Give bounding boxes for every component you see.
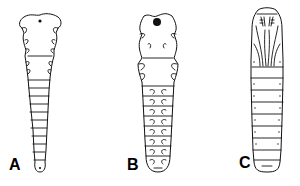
- larvae-illustration: [0, 0, 300, 186]
- specimen-c-drawing: [251, 8, 283, 172]
- specimen-a-drawing: [20, 14, 61, 172]
- panel-label-c: C: [239, 155, 251, 171]
- specimen-b-drawing: [138, 14, 178, 172]
- figure: A B C: [0, 0, 300, 186]
- panel-label-a: A: [9, 157, 21, 173]
- panel-label-b: B: [127, 157, 139, 173]
